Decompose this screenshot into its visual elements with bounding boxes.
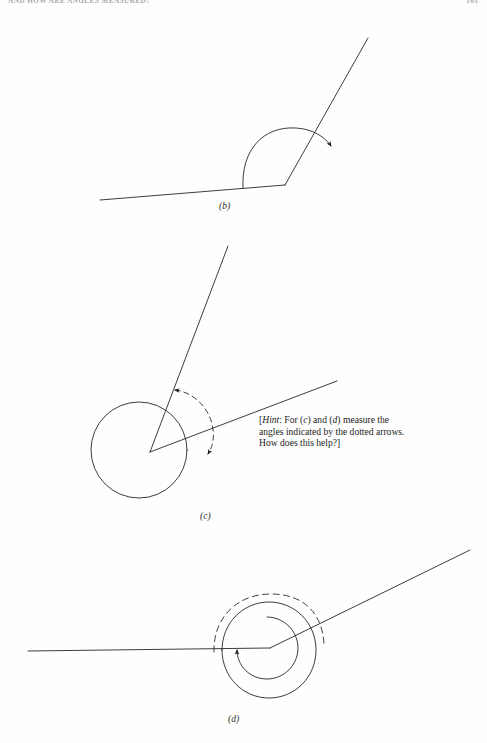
figure-d-dashed-arc xyxy=(214,594,324,652)
figure-artwork-layer xyxy=(0,0,487,743)
figure-c-artwork xyxy=(91,246,337,498)
figure-d-caption: (d) xyxy=(228,714,239,724)
figure-d-base-line xyxy=(28,648,270,651)
figure-d-artwork xyxy=(28,550,470,698)
figure-c-ray-steep xyxy=(150,246,228,452)
hint-block: [Hint: For (c) and (d) measure the angle… xyxy=(259,414,409,449)
figure-b-artwork xyxy=(100,38,368,200)
figure-d-ray xyxy=(270,550,470,648)
figure-c-dashed-arc xyxy=(175,390,213,454)
hint-label: Hint xyxy=(262,414,279,425)
figure-b-ray xyxy=(285,38,368,185)
figure-d-outer-circle xyxy=(222,602,316,698)
hint-close-bracket: ] xyxy=(337,437,340,448)
figure-b-base-line xyxy=(100,185,285,200)
figure-c-caption: (c) xyxy=(200,511,211,521)
figure-b-caption: (b) xyxy=(219,201,230,211)
figure-b-angle-arc xyxy=(243,128,331,188)
hint-colon: : For ( xyxy=(279,414,303,425)
figure-c-circle xyxy=(91,402,187,498)
hint-conjunction: ) and ( xyxy=(308,414,333,425)
textbook-page: AND HOW ARE ANGLES MEASURED? 163 xyxy=(0,0,487,743)
